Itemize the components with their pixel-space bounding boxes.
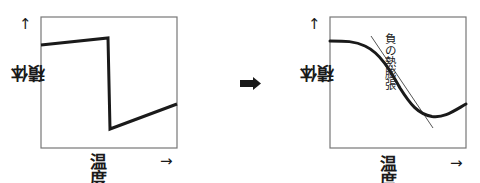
left-y-axis-label: 体積: [12, 64, 46, 82]
left-volume-curve: [41, 38, 177, 129]
right-arrow-icon: [240, 77, 261, 90]
left-y-arrow-icon: ↑: [19, 17, 32, 32]
right-x-arrow-icon: →: [450, 156, 463, 171]
right-x-axis-label: 温度: [380, 156, 398, 183]
left-x-axis-label: 温度: [90, 154, 108, 183]
right-y-axis-label: 体積: [301, 64, 335, 82]
left-x-arrow-icon: →: [160, 154, 173, 169]
right-volume-curve: [330, 41, 466, 117]
diagram-graphics: [0, 0, 480, 183]
right-y-arrow-icon: ↑: [308, 17, 321, 32]
negative-thermal-expansion-annotation: 負の熱膨張: [385, 34, 397, 92]
